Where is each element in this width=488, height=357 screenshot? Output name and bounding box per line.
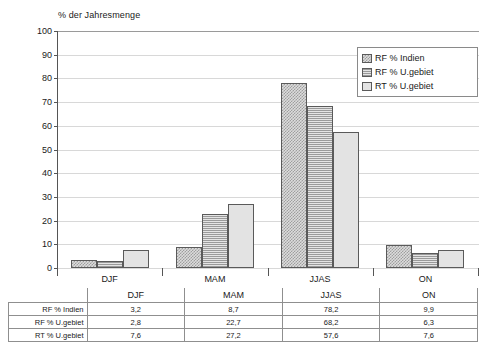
table-cell-value: 9,9 <box>380 303 478 316</box>
bar-jjas-series1 <box>281 83 307 268</box>
legend-swatch-icon <box>362 68 372 77</box>
y-axis-tick-label: 10 <box>26 240 52 249</box>
table-cell-value: 8,7 <box>185 303 283 316</box>
table-cell-value: 7,6 <box>87 329 185 342</box>
category-label-djf: DJF <box>57 272 162 286</box>
chart-legend: RF % Indien RF % U.gebiet RT % U.gebiet <box>357 47 478 97</box>
category-label-jjas: JJAS <box>268 272 373 286</box>
category-label-mam: MAM <box>162 272 267 286</box>
y-axis-tick-label: 70 <box>26 98 52 107</box>
category-label-on: ON <box>373 272 478 286</box>
table-column-header-jjas: JJAS <box>282 288 380 303</box>
bar-on-series3 <box>438 250 464 268</box>
bar-group-djf <box>57 31 162 268</box>
bar-chart-figure: % der Jahresmenge DJFMAMJJASON RF % Indi… <box>0 0 488 357</box>
y-axis-tick-label: 0 <box>26 264 52 273</box>
table-cell-value: 2,8 <box>87 316 185 329</box>
table-cell-value: 68,2 <box>282 316 380 329</box>
table-row-label: RF % U.gebiet <box>9 316 88 329</box>
y-axis-tick-label: 30 <box>26 193 52 202</box>
table-column-header-on: ON <box>380 288 478 303</box>
y-axis-title: % der Jahresmenge <box>58 10 140 20</box>
table-cell-value: 78,2 <box>282 303 380 316</box>
legend-label: RT % U.gebiet <box>375 82 433 91</box>
y-axis-tick-label: 60 <box>26 122 52 131</box>
category-tick-mark <box>478 268 479 276</box>
legend-item-rf-ugebiet: RF % U.gebiet <box>362 65 473 79</box>
category-axis-labels: DJFMAMJJASON <box>57 272 478 286</box>
table-header-row: DJFMAMJJASON <box>9 288 478 303</box>
bar-jjas-series3 <box>333 132 359 269</box>
y-axis-tick-label: 80 <box>26 74 52 83</box>
table-row: RT % U.gebiet7,627,257,67,6 <box>9 329 478 342</box>
legend-label: RF % Indien <box>375 54 425 63</box>
table-row-label: RT % U.gebiet <box>9 329 88 342</box>
bar-djf-series2 <box>97 261 123 268</box>
table-row-label: RF % Indien <box>9 303 88 316</box>
bar-djf-series3 <box>123 250 149 268</box>
bar-mam-series2 <box>202 214 228 268</box>
table-row: RF % U.gebiet2,822,768,26,3 <box>9 316 478 329</box>
table-row: RF % Indien3,28,778,29,9 <box>9 303 478 316</box>
y-axis-tick-label: 20 <box>26 217 52 226</box>
table-cell-value: 22,7 <box>185 316 283 329</box>
bar-jjas-series2 <box>307 106 333 268</box>
bar-mam-series3 <box>228 204 254 268</box>
table-corner-cell <box>9 288 88 303</box>
table-cell-value: 57,6 <box>282 329 380 342</box>
legend-swatch-icon <box>362 54 372 63</box>
bar-on-series2 <box>412 253 438 268</box>
table-cell-value: 3,2 <box>87 303 185 316</box>
legend-item-rf-indien: RF % Indien <box>362 51 473 65</box>
legend-swatch-icon <box>362 82 372 91</box>
table-column-header-djf: DJF <box>87 288 185 303</box>
data-table: DJFMAMJJASONRF % Indien3,28,778,29,9RF %… <box>8 288 478 342</box>
bar-mam-series1 <box>176 247 202 268</box>
table-cell-value: 6,3 <box>380 316 478 329</box>
table-cell-value: 7,6 <box>380 329 478 342</box>
bar-group-mam <box>162 31 267 268</box>
bar-on-series1 <box>386 245 412 268</box>
bar-djf-series1 <box>71 260 97 268</box>
y-axis-tick-label: 50 <box>26 146 52 155</box>
table-column-header-mam: MAM <box>185 288 283 303</box>
legend-item-rt-ugebiet: RT % U.gebiet <box>362 79 473 93</box>
legend-label: RF % U.gebiet <box>375 68 434 77</box>
y-axis-tick-label: 100 <box>26 27 52 36</box>
table-cell-value: 27,2 <box>185 329 283 342</box>
y-axis-tick-label: 90 <box>26 51 52 60</box>
y-axis-tick-label: 40 <box>26 169 52 178</box>
